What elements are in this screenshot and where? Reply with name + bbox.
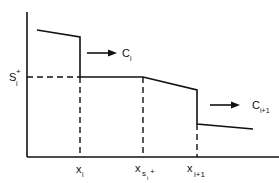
arrow-ci1 (210, 102, 240, 109)
diagram-canvas: S i + C i C i+1 x i x s i + x i+1 (0, 0, 279, 183)
arrow-ci (87, 50, 117, 57)
xtick-xi-sub: i (82, 171, 84, 178)
ci-label: C (122, 47, 130, 59)
y-label-s-sub: i (16, 80, 18, 87)
xtick-xi1: x (187, 162, 193, 174)
xtick-xi1-sub: i+1 (194, 170, 205, 179)
xtick-xsi-sup: + (150, 167, 155, 176)
profile-curve (37, 30, 253, 129)
y-label-s-sup: + (16, 67, 21, 76)
ci1-label-sub: i+1 (260, 107, 270, 114)
ci-label-sub: i (130, 55, 132, 62)
xtick-xsi-sub: s (142, 169, 146, 178)
xtick-xsi: x (135, 162, 141, 174)
xtick-xsi-subsub: i (147, 175, 148, 181)
ci1-label: C (252, 99, 260, 111)
